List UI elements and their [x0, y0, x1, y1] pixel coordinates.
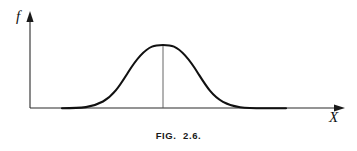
plot-area: [0, 0, 357, 151]
normal-curve: [62, 45, 286, 108]
x-axis-label: X: [329, 110, 338, 125]
figure-container: f X FIG. 2.6.: [0, 0, 357, 151]
figure-caption: FIG. 2.6.: [0, 130, 357, 141]
y-axis-arrowhead: [26, 11, 33, 22]
y-axis-label: f: [16, 9, 20, 24]
